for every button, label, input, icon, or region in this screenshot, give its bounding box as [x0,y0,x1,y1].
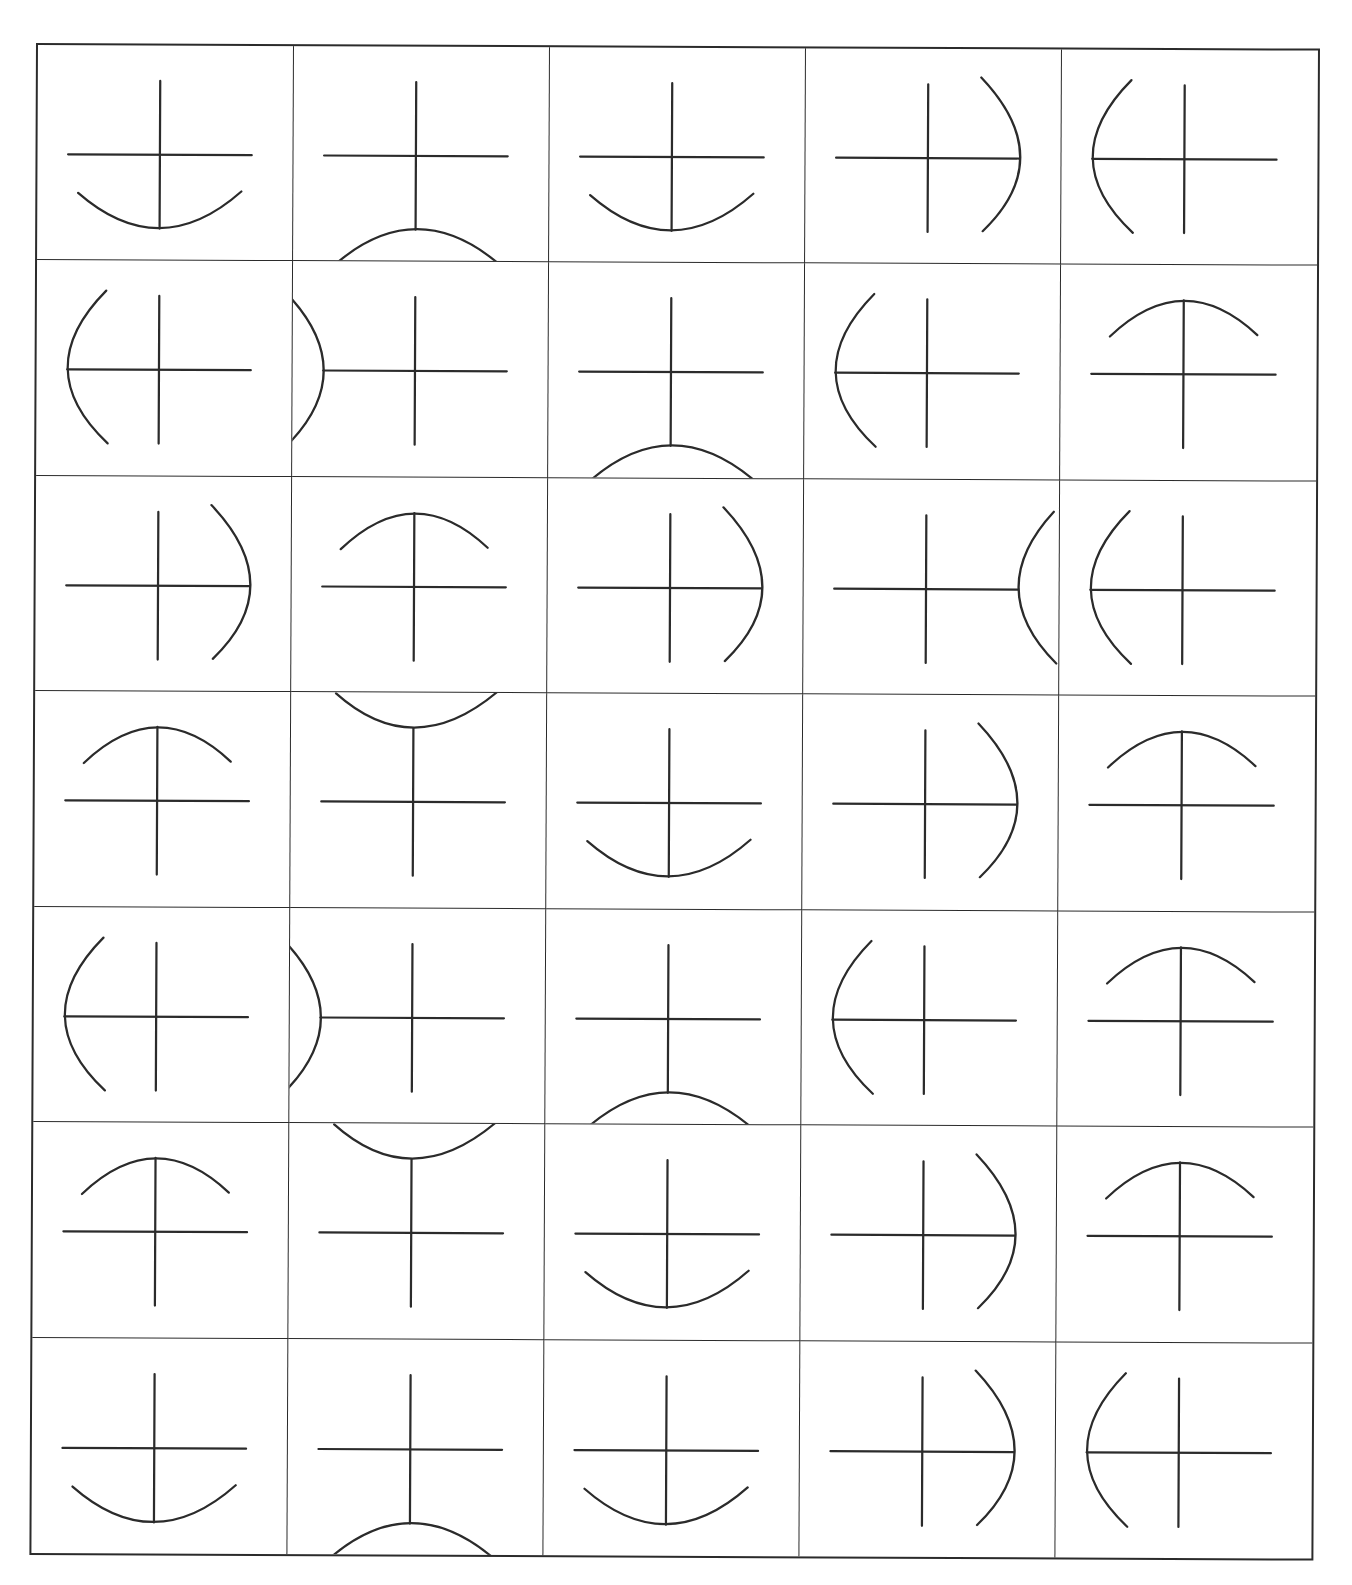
grid-cell-r3-c2 [291,477,548,694]
cross-arc-down-icon [37,45,293,261]
cross-arc-up-icon [291,477,547,693]
grid-cell-r1-c1 [37,45,294,262]
grid-cell-r6-c1 [32,1122,289,1339]
cross-arc-up-icon [1058,696,1315,912]
cross-arc-up-icon [1057,911,1314,1127]
cross-arc-right-icon [805,48,1061,264]
cross-arc-right-icon [799,1341,1055,1558]
grid-cell-r2-c5 [1060,265,1317,482]
grid-cell-r6-c3 [544,1124,801,1341]
symbol-grid [29,43,1320,1561]
grid-cell-r1-c3 [549,47,806,264]
cross-arc-up-reversed-icon [288,1123,544,1339]
grid-cell-r6-c4 [800,1125,1057,1342]
cross-arc-up-icon [34,691,290,907]
cross-arc-up-icon [1060,265,1317,481]
cross-arc-right-icon [802,695,1058,911]
cross-arc-down-icon [31,1338,287,1555]
grid-cell-r7-c4 [799,1341,1056,1558]
grid-cell-r1-c2 [293,46,550,263]
cross-arc-left-icon [1059,480,1316,696]
grid-cell-r6-c2 [288,1123,545,1340]
cross-arc-down-reversed-icon [548,263,804,479]
grid-cell-r5-c3 [545,909,802,1126]
grid-cell-r4-c4 [802,695,1059,912]
cross-arc-left-icon [1055,1342,1312,1559]
cross-arc-left-icon [801,910,1057,1126]
grid-cell-r7-c5 [1055,1342,1312,1559]
cross-arc-right-icon [547,478,803,694]
cross-arc-left-icon [36,260,292,476]
cross-arc-up-icon [1056,1127,1313,1343]
clipped-header-text [0,0,240,6]
cross-arc-right-icon [35,476,291,692]
grid-cell-r2-c3 [548,263,805,480]
cross-arc-left-icon [33,907,289,1123]
cross-arc-down-icon [546,694,802,910]
cross-arc-right-icon [800,1125,1056,1341]
grid-cell-r4-c5 [1058,696,1315,913]
cross-arc-left-reversed-icon [292,262,548,478]
grid-cell-r5-c2 [289,908,546,1125]
grid-cell-r3-c1 [35,476,292,693]
grid-cell-r7-c3 [543,1340,800,1557]
cross-arc-right-reversed-icon [803,479,1059,695]
grid-cell-r2-c4 [804,264,1061,481]
grid-cell-r7-c2 [287,1339,544,1556]
cross-arc-down-icon [544,1124,800,1340]
grid-cell-r1-c4 [805,48,1062,265]
cross-arc-left-icon [1061,49,1318,265]
cross-arc-left-reversed-icon [289,908,545,1124]
grid-cell-r7-c1 [31,1338,288,1555]
cross-arc-down-icon [549,47,805,263]
grid-cell-r5-c1 [33,907,290,1124]
grid-cell-r5-c4 [801,910,1058,1127]
grid-cell-r1-c5 [1061,49,1318,266]
cross-arc-down-reversed-icon [545,909,801,1125]
grid-cell-r5-c5 [1057,911,1314,1128]
grid-cell-r3-c3 [547,478,804,695]
cross-arc-down-icon [543,1340,799,1557]
grid-cell-r4-c2 [290,692,547,909]
grid-cell-r3-c4 [803,479,1060,696]
grid-cell-r4-c1 [34,691,291,908]
grid-cell-r2-c2 [292,262,549,479]
cross-arc-down-reversed-icon [293,46,549,262]
cross-arc-up-reversed-icon [290,692,546,908]
grid-cell-r6-c5 [1056,1127,1313,1344]
grid-cell-r4-c3 [546,694,803,911]
cross-arc-down-reversed-icon [287,1339,543,1556]
grid-cell-r3-c5 [1059,480,1316,697]
cross-arc-left-icon [804,264,1060,480]
grid-cell-r2-c1 [36,260,293,477]
cross-arc-up-icon [32,1122,288,1338]
